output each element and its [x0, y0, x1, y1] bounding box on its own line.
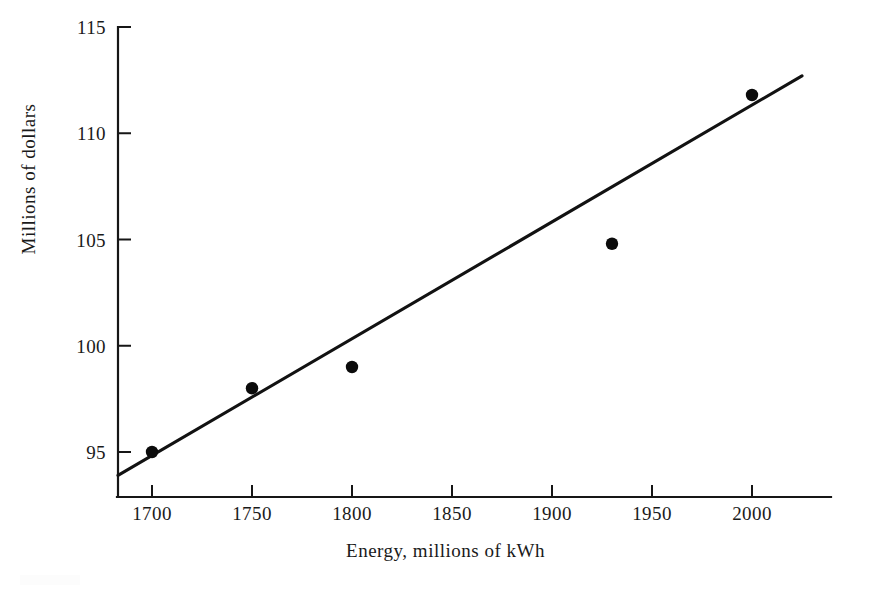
x-tick-label: 1850	[432, 504, 472, 523]
x-tick-label: 1950	[632, 504, 672, 523]
data-point-marker	[746, 89, 758, 101]
fitted-trend-line	[118, 76, 802, 476]
trend-line-group	[118, 76, 802, 476]
y-tick-label: 100	[48, 336, 106, 355]
data-point-marker	[146, 446, 158, 458]
y-tick-label: 95	[48, 443, 106, 462]
scan-artifact	[20, 575, 80, 585]
x-tick-label: 1700	[132, 504, 172, 523]
y-tick-label: 110	[48, 124, 106, 143]
data-point-marker	[346, 361, 358, 373]
y-tick-label: 115	[48, 18, 106, 37]
x-axis-title: Energy, millions of kWh	[0, 540, 891, 562]
y-axis-ticks	[118, 27, 131, 452]
y-tick-label: 105	[48, 230, 106, 249]
data-point-marker	[606, 238, 618, 250]
scatter-plot-figure: 95100105110115 1700175018001850190019502…	[0, 0, 891, 592]
data-points-group	[146, 89, 758, 458]
y-axis-title: Millions of dollars	[18, 64, 40, 294]
data-point-marker	[246, 382, 258, 394]
x-tick-label: 1750	[232, 504, 272, 523]
x-tick-label: 1800	[332, 504, 372, 523]
x-axis-ticks	[152, 485, 752, 497]
x-tick-label: 2000	[732, 504, 772, 523]
axes-group	[117, 27, 831, 497]
x-tick-label: 1900	[532, 504, 572, 523]
